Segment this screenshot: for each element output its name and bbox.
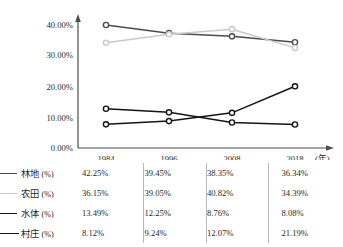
- series-4: [103, 84, 297, 127]
- data-series-layer: [103, 22, 297, 127]
- y-tick-label-20: 20.00%: [47, 82, 74, 92]
- x-tick-label-1996: 1996: [160, 154, 178, 160]
- legend-line-swatch-icon: [0, 193, 17, 194]
- data-point-marker[interactable]: [229, 27, 234, 32]
- data-point-marker[interactable]: [292, 45, 297, 50]
- legend-key-2[interactable]: 水体 (%): [0, 203, 82, 223]
- cell-value: 13.49%: [82, 203, 144, 223]
- cell-value: 34.39%: [269, 183, 343, 203]
- legend-series-name: 村庄: [21, 229, 39, 239]
- y-tick-label-40: 40.00%: [47, 20, 74, 30]
- x-tick-label-2008: 2008: [223, 154, 240, 160]
- cell-value: 21.19%: [269, 223, 343, 243]
- data-point-marker[interactable]: [103, 106, 108, 111]
- cell-value: 36.15%: [82, 183, 144, 203]
- series-1: [103, 22, 297, 44]
- y-axis-arrow-icon: [75, 14, 81, 22]
- table-row: 农田 (%) 36.15% 39.05% 40.82% 34.39%: [0, 183, 343, 203]
- data-point-marker[interactable]: [292, 84, 297, 89]
- legend-data-table: 林地 (%) 42.25% 39.45% 38.35% 36.34% 农田 (%…: [0, 163, 343, 243]
- cell-value: 9.24%: [144, 223, 207, 243]
- data-point-marker[interactable]: [292, 122, 297, 127]
- x-tick-label-1984: 1984: [97, 154, 115, 160]
- data-point-marker[interactable]: [166, 110, 171, 115]
- data-point-marker[interactable]: [166, 32, 171, 37]
- cell-value: 38.35%: [206, 163, 269, 183]
- legend-line-swatch-icon: [0, 213, 17, 214]
- legend-series-unit: (%): [42, 210, 54, 219]
- y-tick-label-10: 10.00%: [47, 113, 74, 123]
- legend-series-unit: (%): [42, 190, 54, 199]
- data-point-marker[interactable]: [103, 122, 108, 127]
- cell-value: 12.25%: [144, 203, 207, 223]
- series-line: [106, 86, 295, 124]
- table-row: 水体 (%) 13.49% 12.25% 8.76% 8.08%: [0, 203, 343, 223]
- x-axis-arrow-icon: [326, 145, 334, 151]
- x-axis-unit-label: (年): [315, 153, 330, 160]
- table-row: 林地 (%) 42.25% 39.45% 38.35% 36.34%: [0, 163, 343, 183]
- cell-value: 42.25%: [82, 163, 144, 183]
- cell-value: 12.07%: [206, 223, 269, 243]
- legend-series-unit: (%): [42, 230, 54, 239]
- cell-value: 36.34%: [269, 163, 343, 183]
- y-tick-label-30: 30.00%: [47, 50, 74, 60]
- y-tick-label-0: 0.00%: [51, 143, 73, 153]
- legend-series-name: 农田: [21, 189, 39, 199]
- data-point-marker[interactable]: [229, 120, 234, 125]
- x-axis-tick-labels: 1984 1996 2008 2018 (年): [97, 153, 329, 160]
- data-point-marker[interactable]: [229, 110, 234, 115]
- data-point-marker[interactable]: [229, 34, 234, 39]
- data-point-marker[interactable]: [103, 22, 108, 27]
- data-point-marker[interactable]: [166, 119, 171, 124]
- legend-line-swatch-icon: [0, 233, 19, 234]
- legend-key-1[interactable]: 农田 (%): [0, 183, 82, 203]
- legend-key-3[interactable]: 村庄 (%): [0, 223, 82, 243]
- cell-value: 39.05%: [144, 183, 207, 203]
- x-tick-label-2018: 2018: [286, 154, 303, 160]
- legend-series-unit: (%): [42, 170, 54, 179]
- cell-value: 8.12%: [82, 223, 144, 243]
- table-row: 村庄 (%) 8.12% 9.24% 12.07% 21.19%: [0, 223, 343, 243]
- cell-value: 8.76%: [206, 203, 269, 223]
- chart-plot-area: 40.00% 30.00% 20.00% 10.00% 0.00% 1984 1…: [0, 0, 343, 160]
- data-point-marker[interactable]: [103, 40, 108, 45]
- cell-value: 40.82%: [206, 183, 269, 203]
- legend-key-0[interactable]: 林地 (%): [0, 163, 82, 183]
- legend-series-name: 林地: [21, 169, 39, 179]
- y-axis-tick-labels: 40.00% 30.00% 20.00% 10.00% 0.00%: [47, 20, 74, 153]
- cell-value: 39.45%: [144, 163, 207, 183]
- legend-series-name: 水体: [21, 209, 39, 219]
- chart-svg: 40.00% 30.00% 20.00% 10.00% 0.00% 1984 1…: [0, 0, 343, 160]
- data-point-marker[interactable]: [292, 40, 297, 45]
- series-2: [103, 27, 297, 51]
- cell-value: 8.08%: [269, 203, 343, 223]
- legend-line-swatch-icon: [0, 173, 17, 174]
- series-line: [106, 29, 295, 48]
- land-use-line-chart-figure: 40.00% 30.00% 20.00% 10.00% 0.00% 1984 1…: [0, 0, 343, 247]
